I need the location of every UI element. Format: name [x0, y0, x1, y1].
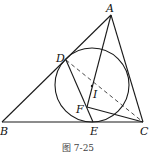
segment-fc: [87, 107, 143, 122]
label-c: C: [140, 125, 149, 138]
segment-ab: [2, 15, 111, 122]
label-i: I: [92, 88, 98, 101]
geometry-diagram: A B C D E F I 图 7-25: [0, 0, 152, 153]
segment-ca: [111, 15, 143, 122]
point-i-dot: [91, 85, 93, 87]
segment-af: [87, 15, 111, 107]
label-a: A: [105, 2, 114, 15]
label-e: E: [89, 125, 98, 138]
label-d: D: [55, 52, 65, 65]
figure-caption: 图 7-25: [62, 143, 94, 153]
label-f: F: [75, 103, 84, 116]
label-b: B: [0, 125, 8, 138]
